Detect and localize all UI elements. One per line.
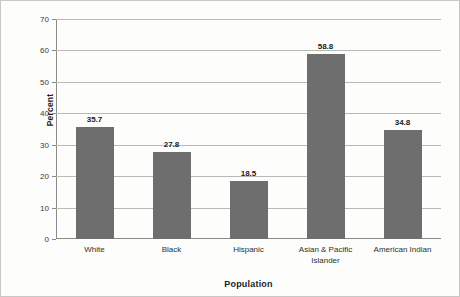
bar[interactable]: [230, 181, 268, 239]
x-axis-category-label: Black: [133, 244, 210, 255]
bars-group: 35.727.818.558.834.8: [56, 19, 441, 239]
bar-value-label: 58.8: [318, 42, 334, 51]
bar-value-label: 18.5: [241, 169, 257, 178]
bar[interactable]: [307, 54, 345, 239]
y-axis-tick-label: 20: [40, 172, 49, 181]
chart-figure: Percent 010203040506070 35.727.818.558.8…: [0, 0, 460, 297]
y-axis-tick-label: 70: [40, 15, 49, 24]
y-axis-tick-mark: [52, 239, 56, 240]
plot-area: 010203040506070 35.727.818.558.834.8: [56, 19, 441, 239]
bar-value-label: 35.7: [87, 115, 103, 124]
bar-slot: 35.7: [56, 19, 133, 239]
y-axis-tick-label: 40: [40, 109, 49, 118]
y-axis-tick-label: 30: [40, 140, 49, 149]
x-axis-category-label: Asian & Pacific Islander: [287, 244, 364, 266]
y-axis-tick-label: 50: [40, 77, 49, 86]
bar-slot: 18.5: [210, 19, 287, 239]
x-axis-category-labels: WhiteBlackHispanicAsian & Pacific Island…: [56, 244, 441, 278]
bar-slot: 34.8: [364, 19, 441, 239]
bar[interactable]: [153, 152, 191, 239]
y-axis-tick-label: 10: [40, 203, 49, 212]
bar-slot: 58.8: [287, 19, 364, 239]
bar-slot: 27.8: [133, 19, 210, 239]
bar[interactable]: [76, 127, 114, 239]
x-axis-category-label: White: [56, 244, 133, 255]
x-axis-title: Population: [56, 279, 441, 289]
y-axis-tick-label: 60: [40, 46, 49, 55]
x-axis-category-label: Hispanic: [210, 244, 287, 255]
bar[interactable]: [384, 130, 422, 239]
bar-value-label: 27.8: [164, 140, 180, 149]
bar-value-label: 34.8: [395, 118, 411, 127]
y-axis-tick-label: 0: [45, 235, 49, 244]
x-axis-category-label: American Indian: [364, 244, 441, 255]
